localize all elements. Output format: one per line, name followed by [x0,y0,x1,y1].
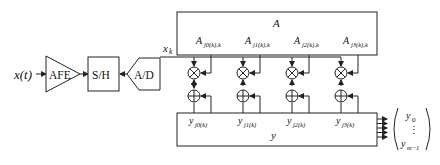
svg-text:A: A [342,35,350,46]
svg-text:j0(k),k: j0(k),k [203,41,221,49]
channel-1 [237,55,260,113]
left-paren-icon [394,108,398,150]
matrix-a-title: A [272,17,280,29]
svg-text:A: A [195,35,203,46]
svg-text:y: y [400,138,406,149]
svg-text:j3(k),k: j3(k),k [350,41,368,49]
sample-hold-label: S/H [92,69,110,81]
svg-text:j1(k): j1(k) [243,121,256,129]
vector-y-block: y y j0(k) y j1(k) y j2(k) y j3(k) [177,113,377,146]
svg-text:y: y [405,110,411,121]
svg-text:j1(k),k: j1(k),k [252,41,270,49]
svg-text:0: 0 [412,116,416,124]
svg-text:y: y [237,115,243,126]
sample-hold-block: S/H [88,57,119,91]
adc-label: A/D [134,69,154,81]
svg-text:⋮: ⋮ [409,124,419,135]
output-vector: y 0 ⋮ y m−1 [394,108,430,151]
input-signal: x(t) [13,67,46,82]
sample-label: x [162,42,168,54]
svg-text:j2(k): j2(k) [292,121,305,129]
channel-2 [286,55,309,113]
vector-y-title: y [270,129,276,141]
channel-3 [335,55,358,113]
adc-block: A/D [127,58,160,90]
svg-text:y: y [188,115,194,126]
svg-text:A: A [244,35,252,46]
input-label: x(t) [13,67,32,82]
channel-0 [188,55,211,113]
output-arrows [377,119,387,137]
afe-label: AFE [49,69,71,81]
svg-text:m−1: m−1 [407,144,419,151]
svg-text:j0(k): j0(k) [194,121,207,129]
matrix-a-block: A A j0(k),k A j1(k),k A j2(k),k A j3(k),… [177,12,377,55]
svg-text:A: A [293,35,301,46]
svg-text:y: y [286,115,292,126]
svg-text:y: y [335,115,341,126]
afe-block: AFE [46,56,80,92]
right-paren-icon [426,108,430,150]
svg-text:j3(k): j3(k) [341,121,354,129]
svg-text:k: k [169,47,173,56]
svg-text:j2(k),k: j2(k),k [301,41,319,49]
compressive-sampling-diagram: x(t) AFE S/H A/D x k A A j0(k),k A j1(k)… [0,0,440,165]
